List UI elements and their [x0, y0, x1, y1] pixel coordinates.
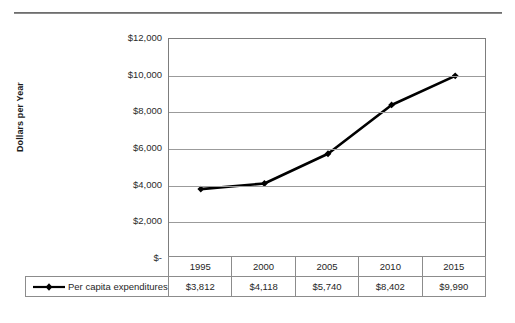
gridline	[169, 149, 485, 150]
table-cell-category: 2010	[359, 257, 422, 277]
y-axis-tick-label: $10,000	[96, 70, 162, 80]
figure-container: Dollars per Year $12,000$10,000$8,000$6,…	[0, 0, 515, 323]
table-row-values: $3,812$4,118$5,740$8,402$9,990	[169, 277, 486, 297]
plot-area	[168, 38, 486, 258]
gridline	[169, 76, 485, 77]
y-axis-tick-labels: $12,000$10,000$8,000$6,000$4,000$2,000$-	[96, 31, 162, 255]
top-horizontal-rule	[14, 12, 502, 14]
table-row-categories: 19952000200520102015	[169, 257, 486, 277]
legend-line-marker-icon	[32, 281, 66, 293]
gridline	[169, 186, 485, 187]
series-line	[201, 76, 455, 189]
table-cell-value: $5,740	[295, 277, 358, 297]
y-axis-tick-label: $2,000	[96, 216, 162, 226]
table-cell-category: 2005	[295, 257, 358, 277]
table-cell-category: 1995	[169, 257, 232, 277]
gridline	[169, 112, 485, 113]
data-table: 19952000200520102015 $3,812$4,118$5,740$…	[168, 256, 486, 297]
table-cell-value: $9,990	[422, 277, 485, 297]
table-cell-value: $4,118	[232, 277, 295, 297]
table-cell-category: 2000	[232, 257, 295, 277]
table-cell-category: 2015	[422, 257, 485, 277]
data-point-marker	[197, 186, 204, 193]
y-axis-tick-label: $12,000	[96, 33, 162, 43]
y-axis-tick-label: $6,000	[96, 143, 162, 153]
legend-label: Per capita expenditures	[68, 281, 168, 292]
y-axis-tick-label: $8,000	[96, 106, 162, 116]
y-axis-tick-label: $-	[96, 253, 162, 263]
table-cell-value: $8,402	[359, 277, 422, 297]
gridline	[169, 222, 485, 223]
y-axis-tick-label: $4,000	[96, 180, 162, 190]
y-axis-title: Dollars per Year	[15, 67, 25, 167]
table-cell-value: $3,812	[169, 277, 232, 297]
legend-item-per-capita-expenditures[interactable]: Per capita expenditures	[25, 276, 169, 297]
